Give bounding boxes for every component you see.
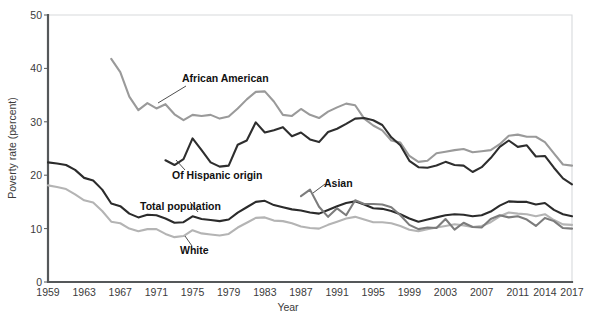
y-axis-title: Poverty rate (percent) <box>6 97 18 199</box>
series-label-hispanic: Of Hispanic origin <box>172 169 262 181</box>
series-label-total-population: Total population <box>140 200 221 212</box>
series-label-asian: Asian <box>324 177 353 189</box>
poverty-rate-chart: 01020304050 1959196319671971197519791983… <box>0 0 593 322</box>
x-tick-label: 1979 <box>217 286 241 298</box>
series-label-white: White <box>180 244 209 256</box>
x-tick-label: 1975 <box>181 286 205 298</box>
x-tick-label: 2003 <box>434 286 458 298</box>
x-tick-label: 1999 <box>398 286 422 298</box>
x-tick-label: 1995 <box>362 286 386 298</box>
x-tick-label: 1991 <box>325 286 349 298</box>
chart-background <box>0 0 593 322</box>
y-tick-label: 20 <box>30 169 42 181</box>
x-axis-title: Year <box>277 301 299 313</box>
x-tick-label: 1967 <box>109 286 133 298</box>
x-tick-label: 2014 <box>533 286 557 298</box>
x-tick-label: 1963 <box>72 286 96 298</box>
x-tick-label: 2017 <box>560 286 584 298</box>
y-tick-label: 50 <box>30 9 42 21</box>
x-tick-label: 1983 <box>253 286 277 298</box>
x-tick-label: 1987 <box>289 286 313 298</box>
x-tick-label: 1959 <box>36 286 60 298</box>
x-tick-label: 1971 <box>145 286 169 298</box>
chart-svg: 01020304050 1959196319671971197519791983… <box>0 0 593 322</box>
x-tick-label: 2011 <box>506 286 529 298</box>
y-tick-label: 40 <box>30 62 42 74</box>
y-tick-label: 10 <box>30 223 42 235</box>
x-tick-label: 2007 <box>470 286 494 298</box>
series-label-african-american: African American <box>182 72 269 84</box>
y-tick-label: 30 <box>30 116 42 128</box>
